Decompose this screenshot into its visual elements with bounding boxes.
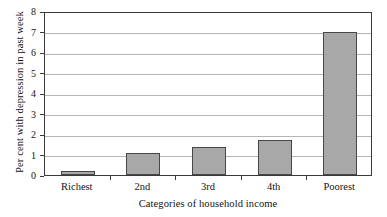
x-axis-tick-label: 3rd xyxy=(175,180,241,194)
bar-chart-figure: Per cent with depression in past week 01… xyxy=(0,0,387,217)
gridline xyxy=(45,33,371,34)
y-axis-tick-label: 1 xyxy=(10,151,36,161)
bar xyxy=(192,147,226,175)
gridline xyxy=(45,74,371,75)
y-axis-tick-label: 4 xyxy=(10,89,36,99)
y-axis-tick-label: 5 xyxy=(10,69,36,79)
y-axis-tick-label: 8 xyxy=(10,7,36,17)
bar xyxy=(61,171,95,175)
bar xyxy=(323,32,357,176)
gridline xyxy=(45,54,371,55)
gridline xyxy=(45,95,371,96)
plot-area xyxy=(44,12,372,176)
x-axis-title: Categories of household income xyxy=(44,197,372,211)
y-axis-tick-label: 0 xyxy=(10,171,36,181)
x-axis-tick-label: Richest xyxy=(44,180,110,194)
x-axis-tick-label: 2nd xyxy=(110,180,176,194)
x-axis-tick-label: Poorest xyxy=(306,180,372,194)
y-axis-tick-label: 6 xyxy=(10,48,36,58)
x-axis-tick-label: 4th xyxy=(241,180,307,194)
gridline xyxy=(45,115,371,116)
gridline xyxy=(45,136,371,137)
y-axis-tick-label: 7 xyxy=(10,28,36,38)
bar xyxy=(126,153,160,175)
y-axis-tick-label: 3 xyxy=(10,110,36,120)
bar xyxy=(258,140,292,175)
y-axis-tick-label: 2 xyxy=(10,130,36,140)
